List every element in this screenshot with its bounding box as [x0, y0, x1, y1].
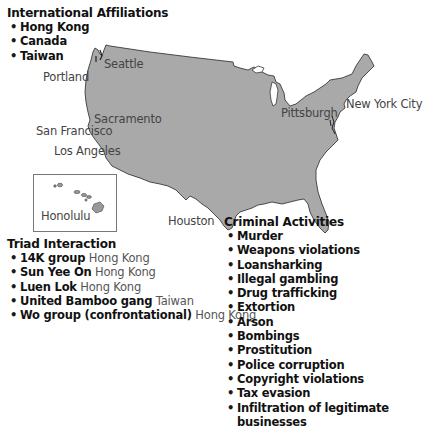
triad-group: 14K group — [20, 251, 85, 265]
triad-item: •Sun Yee On Hong Kong — [7, 265, 256, 279]
bullet-icon: • — [224, 343, 237, 357]
contiguous-us-landmass — [85, 45, 374, 233]
bullet-icon: • — [7, 265, 20, 279]
city-label-san-francisco: San Francisco — [36, 124, 112, 138]
city-label-houston: Houston — [168, 214, 214, 228]
bullet-icon: • — [224, 315, 237, 329]
activity-item: •Tax evasion — [224, 386, 389, 400]
criminal-activities-title: Criminal Activities — [224, 215, 389, 229]
triad-item: •United Bamboo gang Taiwan — [7, 294, 256, 308]
triad-group: Sun Yee On — [20, 265, 92, 279]
activity-item: •Loansharking — [224, 258, 389, 272]
activity-label: Extortion — [237, 300, 295, 314]
activity-item: •Copyright violations — [224, 372, 389, 386]
bullet-icon: • — [7, 294, 20, 308]
activity-item: •Extortion — [224, 300, 389, 314]
activity-label: Police corruption — [237, 358, 344, 372]
activity-item: •Infiltration of legitimate — [224, 401, 389, 415]
triad-item: •14K group Hong Kong — [7, 251, 256, 265]
city-label-new-york-city: New York City — [346, 97, 422, 111]
affiliation-item: •Canada — [7, 34, 168, 48]
affiliation-label: Taiwan — [20, 49, 63, 63]
activity-item: •Bombings — [224, 329, 389, 343]
affiliation-label: Canada — [20, 34, 67, 48]
activity-item: •Weapons violations — [224, 243, 389, 257]
bullet-icon: • — [224, 401, 237, 415]
activity-label: businesses — [237, 415, 307, 429]
international-affiliations-section: International Affiliations •Hong Kong •C… — [7, 6, 168, 63]
bullet-icon: • — [224, 229, 237, 243]
international-affiliations-title: International Affiliations — [7, 6, 168, 20]
triad-location: Hong Kong — [95, 265, 156, 279]
activity-label: Tax evasion — [237, 386, 310, 400]
bullet-icon: • — [7, 280, 20, 294]
triad-location: Taiwan — [156, 294, 194, 308]
triad-group: United Bamboo gang — [20, 294, 152, 308]
activity-item: •Drug trafficking — [224, 286, 389, 300]
activity-item: •Police corruption — [224, 358, 389, 372]
triad-item: •Wo group (confrontational) Hong Kong — [7, 308, 256, 322]
bullet-icon: • — [7, 308, 20, 322]
activity-label: Arson — [237, 315, 274, 329]
triad-interaction-title: Triad Interaction — [7, 237, 256, 251]
triad-location: Hong Kong — [80, 280, 141, 294]
triad-location: Hong Kong — [89, 251, 150, 265]
bullet-icon: • — [224, 300, 237, 314]
activity-item: •Arson — [224, 315, 389, 329]
affiliation-label: Hong Kong — [20, 20, 89, 34]
triad-interaction-list: •14K group Hong Kong •Sun Yee On Hong Ko… — [7, 251, 256, 322]
activity-label: Copyright violations — [237, 372, 364, 386]
bullet-icon: • — [224, 272, 237, 286]
activity-label: Prostitution — [237, 343, 312, 357]
criminal-activities-section: Criminal Activities •Murder •Weapons vio… — [224, 215, 389, 429]
activity-label: Bombings — [237, 329, 300, 343]
activity-label: Illegal gambling — [237, 272, 338, 286]
triad-interaction-section: Triad Interaction •14K group Hong Kong •… — [7, 237, 256, 322]
international-affiliations-list: •Hong Kong •Canada •Taiwan — [7, 20, 168, 63]
triad-group: Wo group (confrontational) — [20, 308, 192, 322]
city-label-honolulu: Honolulu — [41, 209, 90, 223]
bullet-icon: • — [224, 372, 237, 386]
activity-label: Drug trafficking — [237, 286, 337, 300]
activity-item: •Murder — [224, 229, 389, 243]
city-label-los-angeles: Los Angeles — [54, 144, 120, 158]
bullet-icon: • — [7, 49, 20, 63]
triad-item: •Luen Lok Hong Kong — [7, 280, 256, 294]
activity-item-continuation: businesses — [224, 415, 389, 429]
activity-label: Loansharking — [237, 258, 322, 272]
activity-label: Weapons violations — [237, 243, 360, 257]
city-label-portland: Portland — [43, 70, 89, 84]
bullet-icon: • — [224, 386, 237, 400]
activity-label: Infiltration of legitimate — [237, 401, 389, 415]
bullet-icon: • — [224, 329, 237, 343]
bullet-icon: • — [224, 358, 237, 372]
bullet-icon: • — [224, 243, 237, 257]
bullet-icon: • — [7, 34, 20, 48]
hawaii-inset: Honolulu — [33, 174, 117, 232]
bullet-icon: • — [224, 258, 237, 272]
affiliation-item: •Hong Kong — [7, 20, 168, 34]
activity-item: •Illegal gambling — [224, 272, 389, 286]
affiliation-item: •Taiwan — [7, 49, 168, 63]
city-label-pittsburgh: Pittsburgh — [281, 106, 338, 120]
activity-label: Murder — [237, 229, 283, 243]
bullet-icon: • — [224, 286, 237, 300]
bullet-icon: • — [7, 251, 20, 265]
triad-group: Luen Lok — [20, 280, 77, 294]
activity-item: •Prostitution — [224, 343, 389, 357]
bullet-icon: • — [7, 20, 20, 34]
criminal-activities-list: •Murder •Weapons violations •Loansharkin… — [224, 229, 389, 429]
